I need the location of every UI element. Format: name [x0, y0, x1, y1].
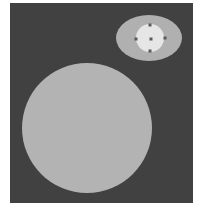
- handle-right-icon[interactable]: [164, 37, 167, 40]
- handle-top-icon[interactable]: [149, 24, 152, 27]
- handle-center-icon[interactable]: [150, 38, 153, 41]
- large-circle[interactable]: [22, 63, 152, 193]
- canvas: [10, 3, 193, 203]
- handle-left-icon[interactable]: [135, 38, 138, 41]
- handle-bottom-icon[interactable]: [149, 50, 152, 53]
- scene-svg: [10, 3, 193, 203]
